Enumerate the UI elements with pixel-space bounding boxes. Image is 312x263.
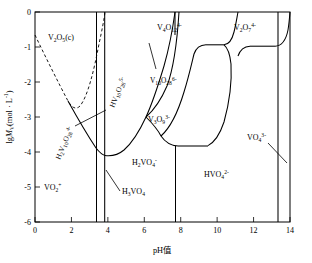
chart-svg: 0 2 4 6 8 10 12 14 0 -1 -2 -3 -4 -5 -6 — [0, 0, 312, 263]
x-tick-10: 10 — [213, 226, 221, 235]
phase-diagram-figure: 0 2 4 6 8 10 12 14 0 -1 -2 -3 -4 -5 -6 — [0, 0, 312, 263]
x-tick-0: 0 — [33, 226, 37, 235]
x-tick-14: 14 — [286, 226, 294, 235]
x-tick-8: 8 — [179, 226, 183, 235]
y-tick-m5: -5 — [24, 183, 31, 192]
x-axis-title: pH值 — [153, 245, 172, 255]
y-axis-title: lgMV(mol · L-1) — [3, 90, 15, 143]
y-tick-m1: -1 — [24, 43, 31, 52]
region-label-v2o5c: V2O5(c) — [48, 33, 74, 43]
x-tick-2: 2 — [69, 226, 73, 235]
y-tick-labels: 0 -1 -2 -3 -4 -5 -6 — [24, 8, 31, 227]
region-label-h3vo4: H3VO4 — [122, 187, 145, 197]
y-tick-m4: -4 — [24, 148, 31, 157]
x-tick-12: 12 — [250, 226, 258, 235]
y-tick-m2: -2 — [24, 78, 31, 87]
x-tick-labels: 0 2 4 6 8 10 12 14 — [33, 226, 294, 235]
x-tick-4: 4 — [106, 226, 110, 235]
x-tick-6: 6 — [142, 226, 146, 235]
y-tick-m6: -6 — [24, 218, 31, 227]
y-tick-0: 0 — [27, 8, 31, 17]
plot-frame — [35, 12, 290, 222]
y-tick-m3: -3 — [24, 113, 31, 122]
